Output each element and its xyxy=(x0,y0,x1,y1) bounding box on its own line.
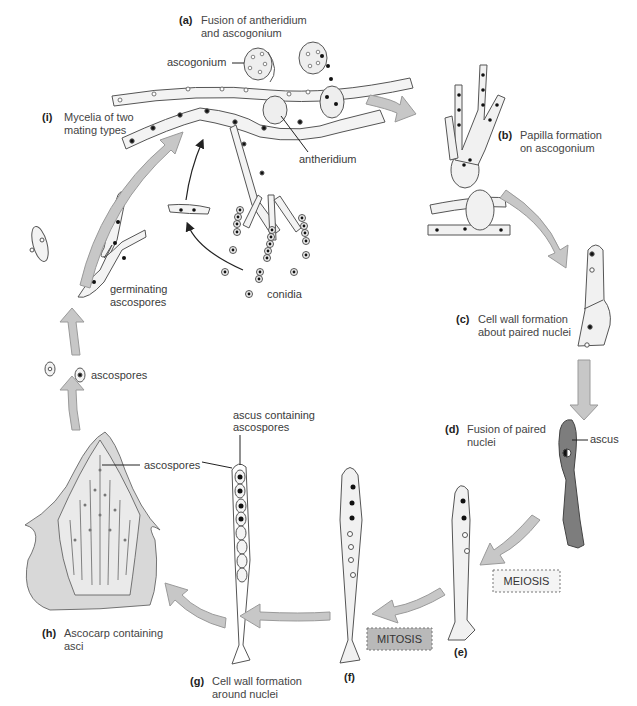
label-ascus-containing-ascospores: ascospores xyxy=(233,421,289,434)
arrow-germination-to-mycelia xyxy=(80,132,183,288)
ascocarp xyxy=(25,432,160,610)
meiosis-label: MEIOSIS xyxy=(493,571,560,591)
arrow-c-to-d xyxy=(570,360,598,420)
arrow-h-to-ascospores xyxy=(60,376,84,430)
ascus-dark xyxy=(559,420,584,548)
step-e-key: (e) xyxy=(454,646,471,659)
label-conidia: conidia xyxy=(267,288,302,301)
step-f-key: (f) xyxy=(344,671,359,684)
label-germinating-ascospores: ascospores xyxy=(110,296,166,309)
free-ascospores xyxy=(45,362,85,382)
ascus-four-nuclei xyxy=(448,486,475,640)
label-ascus: ascus xyxy=(590,433,619,446)
step-h-caption: (h) Ascocarp containing asci xyxy=(42,627,163,653)
ascomycete-life-cycle-diagram: { "title": "Ascomycete life cycle", "col… xyxy=(0,0,637,706)
arrow-ascospores-to-germination xyxy=(60,308,84,355)
label-antheridium: antheridium xyxy=(299,153,356,166)
step-b-caption: (b) Papilla formation on ascogonium xyxy=(498,129,602,155)
ascogonium xyxy=(244,42,344,124)
label-free-ascospores: ascospores xyxy=(91,369,147,382)
arrow-f-to-g xyxy=(240,604,330,628)
diagram-artwork xyxy=(0,0,637,706)
step-c-caption: (c) Cell wall formation about paired nuc… xyxy=(456,313,571,339)
step-i-caption: (i) Mycelia of two mating types xyxy=(42,111,134,137)
step-d-caption: (d) Fusion of paired nuclei xyxy=(445,423,546,449)
arrow-e-to-f xyxy=(372,588,445,623)
label-ascocarp-ascospores: ascospores xyxy=(144,459,200,472)
ascus-eight-nuclei xyxy=(340,468,362,664)
step-a-caption: (a) Fusion of antheridium and ascogonium xyxy=(179,14,307,40)
arrow-g-to-h xyxy=(165,583,226,628)
label-germinating: germinating xyxy=(110,283,167,296)
arrow-d-to-e xyxy=(480,515,540,565)
ascus-with-ascospores xyxy=(232,464,250,664)
mitosis-label: MITOSIS xyxy=(367,629,432,649)
label-ascogonium: ascogonium xyxy=(167,56,226,69)
cell-wall-paired-nuclei xyxy=(578,245,610,347)
step-g-caption: (g) Cell wall formation around nuclei xyxy=(190,675,302,701)
